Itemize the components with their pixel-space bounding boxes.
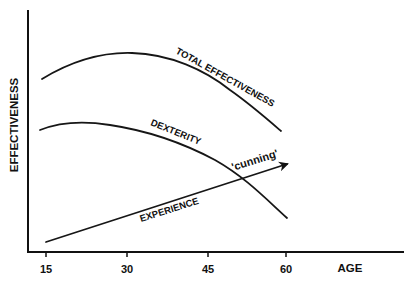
x-tick-label-30: 30 [121,263,133,275]
x-tick-label-45: 45 [202,263,214,275]
x-tick-label-60: 60 [280,263,292,275]
age-effectiveness-diagram: 15 30 45 60 AGE EFFECTIVENESS TOTAL EFFE… [0,0,415,284]
total-effectiveness-label: TOTAL EFFECTIVENESS [174,45,277,109]
x-tick-label-15: 15 [40,263,52,275]
x-axis-label: AGE [338,262,363,274]
experience-arrow [46,164,287,242]
y-axis-label: EFFECTIVENESS [8,77,20,172]
